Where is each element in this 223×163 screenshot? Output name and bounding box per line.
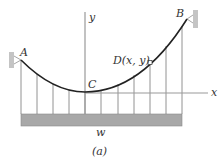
figure-caption: (a) (92, 146, 107, 157)
label-point-b: B (176, 8, 184, 19)
load-deck (21, 114, 182, 126)
hangers (21, 26, 182, 114)
label-point-c: C (88, 79, 96, 90)
cable-curve (21, 19, 187, 92)
support-b (187, 10, 198, 28)
cable-diagram: A B C D(x, y) y x w (a) (0, 0, 223, 163)
label-load-w: w (96, 127, 105, 138)
label-axis-x: x (211, 87, 217, 98)
label-axis-y: y (89, 12, 95, 23)
cable-diagram-svg (0, 0, 223, 163)
label-point-d: D(x, y) (113, 55, 150, 66)
label-point-a: A (20, 47, 28, 58)
